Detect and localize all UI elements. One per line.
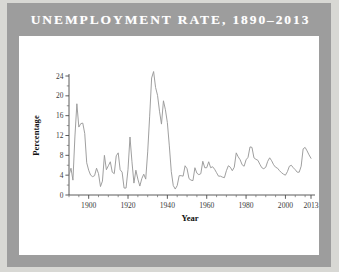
y-axis-ticks (65, 76, 69, 195)
x-axis-title: Year (181, 213, 198, 223)
y-axis-title: Percentage (31, 115, 41, 156)
chart-axes (69, 74, 315, 195)
x-axis-ticks (69, 195, 311, 199)
figure-card: UNEMPLOYMENT RATE, 1890–2013 04812162024… (7, 3, 331, 267)
page-title: UNEMPLOYMENT RATE, 1890–2013 (7, 3, 331, 36)
svg-text:1900: 1900 (81, 201, 96, 210)
svg-text:4: 4 (60, 171, 64, 180)
svg-text:1960: 1960 (199, 201, 214, 210)
svg-text:12: 12 (56, 131, 64, 140)
x-axis-tick-labels: 1900192019401960198020002013 (81, 201, 319, 210)
svg-text:20: 20 (56, 91, 64, 100)
svg-text:16: 16 (56, 111, 64, 120)
svg-text:1920: 1920 (120, 201, 135, 210)
svg-text:8: 8 (60, 151, 64, 160)
unemployment-line-chart: 04812162024 1900192019401960198020002013… (19, 36, 319, 255)
svg-text:2013: 2013 (303, 201, 318, 210)
y-axis-tick-labels: 04812162024 (56, 72, 64, 200)
svg-text:2000: 2000 (278, 201, 293, 210)
chart-panel: 04812162024 1900192019401960198020002013… (19, 36, 319, 255)
svg-text:24: 24 (56, 72, 64, 81)
unemployment-series-line (69, 72, 311, 190)
svg-text:1980: 1980 (238, 201, 253, 210)
svg-text:1940: 1940 (160, 201, 175, 210)
svg-text:0: 0 (60, 191, 64, 200)
chart-plot-area: 04812162024 1900192019401960198020002013… (19, 36, 319, 255)
